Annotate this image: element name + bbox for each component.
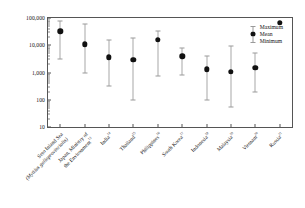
y-minor-tick [48,80,50,81]
maximum-cap [82,23,87,24]
mean-marker [82,41,87,46]
error-bar-range [84,24,85,73]
minimum-cap [253,92,258,93]
y-minor-tick [48,100,50,101]
maximum-cap [107,40,112,41]
maximum-cap [204,55,209,56]
x-tick-mark [206,124,207,127]
y-minor-tick [48,102,50,103]
maximum-cap [253,52,258,53]
y-minor-tick [48,91,50,92]
maximum-icon [248,23,257,30]
error-bar-range [109,40,110,86]
mean-marker [57,28,62,33]
x-tick-mark [109,124,110,127]
y-minor-tick [48,118,50,119]
y-minor-tick [48,86,50,87]
error-bar-range [133,38,134,100]
maximum-cap [58,20,63,21]
y-minor-tick [48,46,50,47]
minimum-cap [131,99,136,100]
x-tick-mark [84,124,85,127]
maximum-cap [229,45,234,46]
legend-item-mean: Mean [248,30,283,37]
error-bar-range [182,48,183,75]
mean-marker [179,54,184,59]
y-minor-tick [48,105,50,106]
mean-marker [155,37,160,42]
plot-area: 100,00010,0001,00010010 Seto Inland Sea(… [47,17,293,128]
y-tick-mark [48,127,51,128]
x-tick-mark [133,124,134,127]
x-tick-mark [279,124,280,127]
x-tick-mark [182,124,183,127]
y-minor-tick [48,110,50,111]
y-tick-label: 1,000 [32,70,45,76]
y-minor-tick [48,26,50,27]
minimum-cap [204,99,209,100]
y-minor-tick [48,107,50,108]
y-minor-tick [48,19,50,20]
y-tick-label: 100,000 [26,15,45,21]
y-minor-tick [48,47,50,48]
maximum-cap [180,48,185,49]
y-minor-tick [48,64,50,65]
y-minor-tick [48,37,50,38]
mean-marker [131,57,136,62]
y-minor-tick [48,53,50,54]
y-minor-tick [48,113,50,114]
legend-label-maximum: Maximum [260,24,283,30]
x-tick-mark [157,124,158,127]
maximum-cap [155,31,160,32]
y-minor-tick [48,75,50,76]
mean-marker [253,65,258,70]
chart-legend: Maximum Mean Minimum [245,21,288,47]
maximum-cap [131,37,136,38]
y-tick-label: 10 [39,124,45,130]
y-minor-tick [48,32,50,33]
legend-label-mean: Mean [260,31,273,37]
y-minor-tick [48,22,50,23]
y-minor-tick [48,103,50,104]
x-tick-mark [60,124,61,127]
minimum-cap [107,86,112,87]
minimum-cap [229,107,234,108]
y-minor-tick [48,59,50,60]
legend-item-maximum: Maximum [248,23,283,30]
error-bar-range [206,56,207,100]
y-minor-tick [48,56,50,57]
mean-marker [228,69,233,74]
minimum-cap [180,75,185,76]
minimum-icon [248,38,257,45]
chart-figure: PCB concentrations (pg/g-wet) 100,00010,… [0,0,305,208]
y-minor-tick [48,51,50,52]
y-axis-title: PCB concentrations (pg/g-wet) [0,0,2,19]
y-minor-tick [48,28,50,29]
error-bar-range [60,21,61,59]
minimum-cap [58,59,63,60]
x-tick-mark [255,124,256,127]
y-minor-tick [48,20,50,21]
y-minor-tick [48,49,50,50]
y-minor-tick [48,73,50,74]
x-tick-mark [231,124,232,127]
y-minor-tick [48,78,50,79]
minimum-cap [155,76,160,77]
minimum-cap [82,72,87,73]
y-tick-label: 10,000 [29,42,45,48]
y-tick-label: 100 [36,97,45,103]
y-minor-tick [48,83,50,84]
y-minor-tick [48,24,50,25]
y-minor-tick [48,76,50,77]
legend-item-minimum: Minimum [248,38,283,45]
mean-marker [106,55,111,60]
legend-label-minimum: Minimum [260,38,282,44]
mean-marker [204,67,209,72]
error-bar-range [231,46,232,108]
error-bar-range [255,53,256,92]
